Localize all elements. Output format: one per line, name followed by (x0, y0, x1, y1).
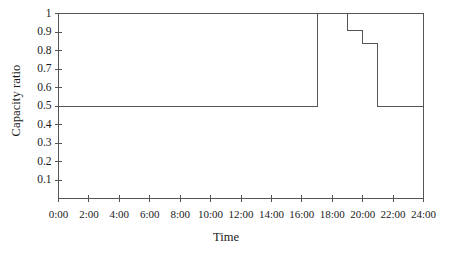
y-axis-title: Capacity ratio (4, 0, 30, 200)
chart-series-lines (59, 14, 424, 107)
chart-tick-marks (55, 14, 424, 203)
capacity-ratio-chart: 0.10.20.30.40.50.60.70.80.91 0:002:004:0… (0, 0, 452, 253)
series-line-0 (59, 14, 424, 107)
y-tick-label: 0.8 (37, 45, 51, 57)
y-tick-label: 0.1 (37, 174, 51, 186)
x-tick-label: 24:00 (404, 209, 444, 220)
y-tick-label: 1 (46, 8, 52, 20)
y-tick-label: 0.3 (37, 137, 51, 149)
x-axis-title: Time (0, 230, 452, 245)
y-tick-label: 0.7 (37, 63, 51, 75)
y-tick-label: 0.4 (37, 119, 51, 131)
y-axis-title-text: Capacity ratio (10, 64, 25, 136)
y-tick-label: 0.5 (37, 100, 51, 112)
y-tick-label: 0.9 (37, 26, 51, 38)
y-tick-label: 0.6 (37, 82, 51, 94)
y-tick-label: 0.2 (37, 156, 51, 168)
